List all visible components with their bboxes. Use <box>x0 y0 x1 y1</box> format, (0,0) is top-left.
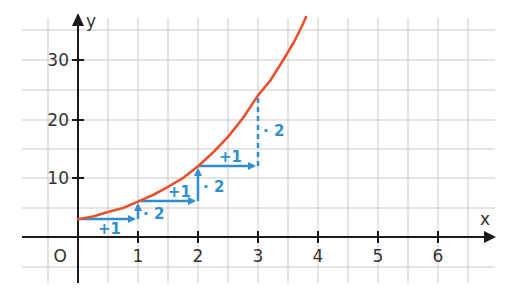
x-axis-label: x <box>480 209 490 229</box>
x-tick-label-1: 1 <box>133 246 144 266</box>
exponential-growth-chart: 1 2 3 4 5 6 10 20 30 O y x +1 · 2 +1 · 2… <box>0 0 508 295</box>
x-tick-label-3: 3 <box>253 246 264 266</box>
x-axis-arrow-icon <box>484 231 496 243</box>
ticks <box>72 60 438 243</box>
x-tick-label-6: 6 <box>433 246 444 266</box>
y-tick-label-20: 20 <box>47 110 69 130</box>
x-tick-label-2: 2 <box>193 246 204 266</box>
y-tick-label-10: 10 <box>47 168 69 188</box>
origin-label: O <box>54 246 67 266</box>
y-tick-label-30: 30 <box>47 50 69 70</box>
grid <box>22 18 495 283</box>
y-axis-label: y <box>86 11 96 31</box>
step-label-times2-a: · 2 <box>143 205 164 223</box>
step-label-plus1-a: +1 <box>98 220 121 238</box>
step-label-plus1-c: +1 <box>219 148 242 166</box>
x-tick-label-4: 4 <box>313 246 324 266</box>
step-label-times2-c: · 2 <box>263 122 284 140</box>
axes <box>22 24 486 283</box>
y-axis-arrow-icon <box>72 13 84 26</box>
step-label-times2-b: · 2 <box>203 178 224 196</box>
x-tick-label-5: 5 <box>373 246 384 266</box>
exponential-curve <box>78 17 306 219</box>
